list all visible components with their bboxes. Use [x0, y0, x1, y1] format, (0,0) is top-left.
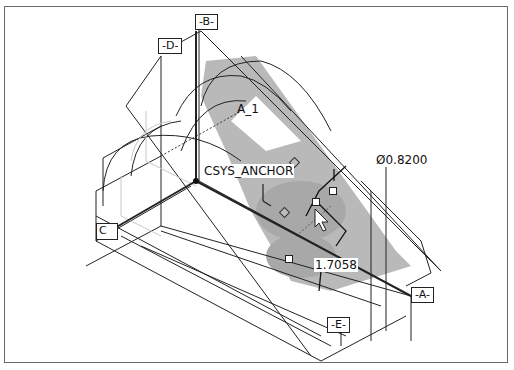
drag-handle[interactable] [285, 255, 293, 263]
datum-label-a[interactable]: -A- [411, 287, 434, 303]
csys-label[interactable]: CSYS_ANCHOR [203, 164, 294, 178]
drag-handle[interactable] [329, 187, 337, 195]
datum-label-d[interactable]: -D- [158, 38, 182, 54]
diameter-dimension[interactable]: Ø0.8200 [375, 153, 428, 167]
drag-handle[interactable] [312, 198, 320, 206]
cad-viewport[interactable]: -B- -D- C -A- -E- A_1 CSYS_ANCHOR Ø0.820… [4, 6, 508, 363]
model-geometry [5, 7, 507, 362]
diameter-value: 0.8200 [385, 153, 427, 167]
axis-label[interactable]: A_1 [236, 102, 260, 116]
length-dimension[interactable]: 1.7058 [314, 258, 358, 272]
datum-label-e[interactable]: -E- [327, 317, 350, 333]
origin-point [193, 178, 199, 184]
datum-label-c[interactable]: C [96, 223, 118, 240]
datum-label-b[interactable]: -B- [195, 14, 218, 30]
